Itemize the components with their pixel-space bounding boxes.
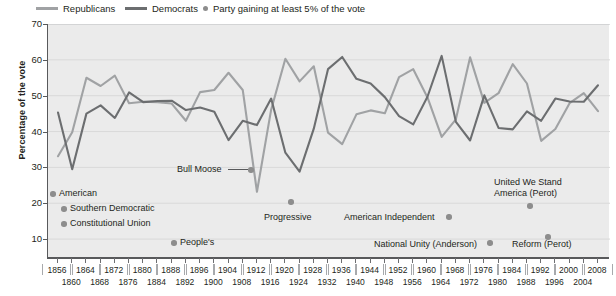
x-axis-tick-label: 1992 <box>525 265 555 275</box>
legend-item-republicans: Republicans <box>36 3 115 14</box>
y-axis-tick-label: 40 <box>2 126 42 137</box>
third-party-marker-southern-democratic <box>61 206 67 212</box>
series-line-democrats <box>58 56 598 172</box>
third-party-marker-peoples <box>171 240 177 246</box>
annotation-label-reform-perot: Reform (Perot) <box>512 239 572 250</box>
x-axis-tick-mark <box>299 258 300 263</box>
x-axis-tick-label: 1932 <box>312 277 342 287</box>
x-axis-tick-label: 1952 <box>383 265 413 275</box>
x-axis-tick-label: 1904 <box>213 265 243 275</box>
chart-legend: Republicans Democrats Party gaining at l… <box>0 0 616 20</box>
x-axis-tick-label: 1972 <box>454 277 484 287</box>
x-axis-tick-mark <box>412 258 413 263</box>
x-axis-tick-label: 1968 <box>440 265 470 275</box>
third-party-marker-american-independent <box>446 214 452 220</box>
legend-item-democrats: Democrats <box>125 3 198 14</box>
x-axis-tick-label: 1916 <box>255 277 285 287</box>
x-axis-tick-mark <box>526 258 527 263</box>
x-axis-tick-label: 1928 <box>298 265 328 275</box>
x-axis-label-divider <box>383 264 384 275</box>
y-axis-tick-label: 60 <box>2 54 42 65</box>
x-axis-tick-mark <box>128 258 129 263</box>
third-party-marker-united-we-stand-2 <box>527 203 533 209</box>
x-axis-label-divider <box>298 264 299 275</box>
x-axis-tick-label: 1868 <box>85 277 115 287</box>
x-axis-line <box>47 257 609 259</box>
x-axis-tick-label: 1936 <box>326 265 356 275</box>
x-axis-tick-mark <box>597 258 598 263</box>
x-axis-tick-label: 1888 <box>156 265 186 275</box>
y-axis-tick-label: 50 <box>2 90 42 101</box>
x-axis-tick-mark <box>57 258 58 263</box>
annotation-label-united-we-stand-1: United We Stand <box>494 177 562 188</box>
x-axis-label-divider <box>70 264 71 275</box>
x-axis-tick-label: 2008 <box>582 265 612 275</box>
x-axis-tick-mark <box>242 258 243 263</box>
annotation-label-peoples: People's <box>180 237 214 248</box>
third-party-marker-constitutional-union <box>61 221 67 227</box>
x-axis-tick-label: 1908 <box>227 277 257 287</box>
annotation-label-southern-democratic: Southern Democratic <box>70 203 155 214</box>
annotation-label-constitutional-union: Constitutional Union <box>70 218 151 229</box>
x-axis-tick-mark <box>114 258 115 263</box>
x-axis-tick-mark <box>498 258 499 263</box>
x-axis-tick-label: 2004 <box>568 277 598 287</box>
x-axis-tick-mark <box>540 258 541 263</box>
x-axis-tick-mark <box>256 258 257 263</box>
x-axis-label-divider <box>269 264 270 275</box>
x-axis-label-divider <box>411 264 412 275</box>
x-axis-label-divider <box>127 264 128 275</box>
x-axis-tick-label: 1956 <box>397 277 427 287</box>
x-axis-label-divider <box>213 264 214 275</box>
x-axis-tick-label: 1860 <box>56 277 86 287</box>
legend-label-third-party: Party gaining at least 5% of the vote <box>213 3 365 14</box>
x-axis-tick-mark <box>583 258 584 263</box>
x-axis-tick-label: 1896 <box>184 265 214 275</box>
line-swatch-icon-democrats <box>125 7 147 10</box>
x-axis-tick-label: 1864 <box>70 265 100 275</box>
x-axis-tick-label: 1892 <box>170 277 200 287</box>
y-axis-tick-label: 20 <box>2 197 42 208</box>
x-axis-tick-label: 1920 <box>269 265 299 275</box>
x-axis-tick-mark <box>171 258 172 263</box>
x-axis-label-divider <box>497 264 498 275</box>
annotation-label-national-unity: National Unity (Anderson) <box>374 239 477 250</box>
y-axis-tick-label: 30 <box>2 161 42 172</box>
annotation-label-united-we-stand-2: America (Perot) <box>494 188 557 199</box>
x-axis-tick-label: 1912 <box>241 265 271 275</box>
x-axis-tick-mark <box>469 258 470 263</box>
third-party-marker-american <box>50 191 56 197</box>
x-axis-tick-mark <box>554 258 555 263</box>
x-axis-label-divider <box>184 264 185 275</box>
x-axis-label-divider <box>42 264 43 275</box>
x-axis-tick-mark <box>327 258 328 263</box>
x-axis-tick-mark <box>142 258 143 263</box>
x-axis-tick-mark <box>213 258 214 263</box>
x-axis-tick-label: 1872 <box>99 265 129 275</box>
x-axis-label-divider <box>326 264 327 275</box>
x-axis-tick-mark <box>185 258 186 263</box>
annotation-leader-line-bull-moose <box>228 169 248 170</box>
x-axis-tick-mark <box>313 258 314 263</box>
x-axis-tick-mark <box>71 258 72 263</box>
third-party-marker-bull-moose <box>248 167 254 173</box>
x-axis-label-divider <box>554 264 555 275</box>
x-axis-tick-label: 1988 <box>511 277 541 287</box>
x-axis-tick-mark <box>455 258 456 263</box>
third-party-marker-reform-perot <box>545 234 551 240</box>
legend-label-republicans: Republicans <box>63 3 115 14</box>
x-axis-tick-mark <box>341 258 342 263</box>
x-axis-tick-label: 1884 <box>141 277 171 287</box>
x-axis-tick-mark <box>284 258 285 263</box>
x-axis-tick-label: 1976 <box>468 265 498 275</box>
y-axis-title: Percentage of the vote <box>17 50 27 170</box>
x-axis-tick-mark <box>228 258 229 263</box>
x-axis-tick-label: 1960 <box>411 265 441 275</box>
x-axis-label-divider <box>582 264 583 275</box>
x-axis-tick-mark <box>199 258 200 263</box>
x-axis-tick-mark <box>370 258 371 263</box>
x-axis-label-divider <box>355 264 356 275</box>
x-axis-tick-label: 1924 <box>284 277 314 287</box>
x-axis-tick-mark <box>100 258 101 263</box>
x-axis-label-divider <box>440 264 441 275</box>
